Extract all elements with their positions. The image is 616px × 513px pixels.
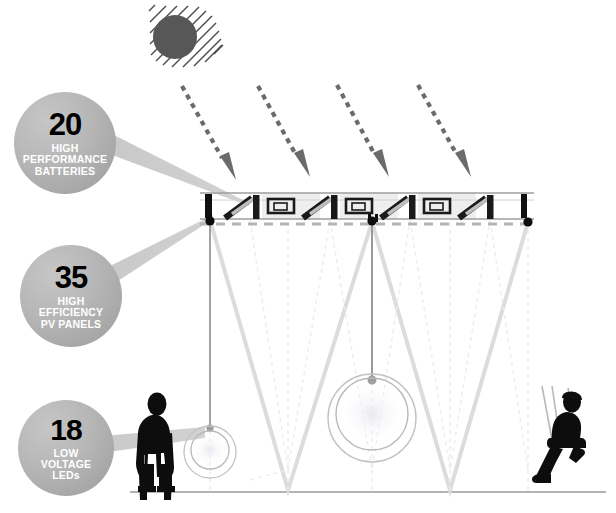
callout-pv-panels[interactable]: 35 HIGH EFFICIENCY PV PANELS [20, 245, 122, 347]
callout-batteries-label: HIGH PERFORMANCE BATTERIES [23, 143, 107, 177]
callout-pv-panels-label-line-3: PV PANELS [41, 318, 102, 330]
solar-irradiance-arrowheads [220, 149, 471, 180]
canopy-end-post-right [521, 194, 527, 218]
sun-disc [153, 15, 197, 59]
callout-batteries-label-line-1: HIGH [51, 142, 78, 154]
seated-person-on-swing-silhouette [532, 386, 586, 483]
callout-pv-panels-label-line-1: HIGH [57, 295, 84, 307]
solar-irradiance-arrows [182, 85, 457, 158]
callout-pv-panels-number: 35 [55, 262, 87, 293]
callout-batteries-number: 20 [49, 109, 81, 140]
pendant-lamp-large [328, 222, 416, 462]
callout-leds-label-line-1: LOW [53, 447, 78, 459]
sun-icon [149, 5, 223, 67]
callout-batteries-label-line-3: BATTERIES [35, 165, 96, 177]
irradiance-arrow-2 [258, 86, 296, 155]
callout-batteries[interactable]: 20 HIGH PERFORMANCE BATTERIES [14, 92, 116, 194]
callout-leds[interactable]: 18 LOW VOLTAGE LEDs [18, 400, 114, 496]
callout-leds-label: LOW VOLTAGE LEDs [41, 448, 92, 482]
callout-leds-label-line-3: LEDs [52, 469, 80, 481]
irradiance-arrow-4 [418, 85, 457, 155]
callout-pv-panels-label: HIGH EFFICIENCY PV PANELS [39, 296, 103, 330]
irradiance-arrow-3 [337, 85, 375, 155]
standing-person-silhouette [136, 393, 175, 501]
leader-line-panels [104, 215, 213, 290]
callout-batteries-label-line-2: PERFORMANCE [23, 153, 107, 165]
callout-leds-number: 18 [50, 415, 81, 445]
irradiance-arrow-1 [182, 86, 222, 158]
infographic-canvas: 20 HIGH PERFORMANCE BATTERIES 35 HIGH EF… [0, 0, 616, 513]
callout-leds-label-line-2: VOLTAGE [41, 458, 92, 470]
callout-pv-panels-label-line-2: EFFICIENCY [39, 306, 103, 318]
